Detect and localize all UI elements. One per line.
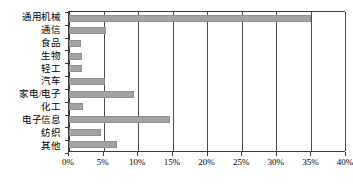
bar xyxy=(69,116,170,123)
y-axis-label: 家电/电子 xyxy=(19,89,64,99)
bar-row xyxy=(69,12,345,25)
y-axis-label: 纺织 xyxy=(41,128,64,138)
bar-row xyxy=(69,25,345,38)
bar xyxy=(69,78,105,85)
x-axis-tick xyxy=(241,152,242,156)
x-axis-tick-label: 35% xyxy=(302,157,319,168)
x-axis-tick-label: 25% xyxy=(233,157,250,168)
bar xyxy=(69,103,83,110)
bar xyxy=(69,40,81,47)
gridline xyxy=(345,12,346,151)
bar-row xyxy=(69,37,345,50)
y-axis-label: 汽车 xyxy=(41,76,64,86)
y-axis-label: 通信 xyxy=(41,25,64,35)
bar-row xyxy=(69,50,345,63)
y-axis-label: 通用机械 xyxy=(22,12,64,22)
bar-row xyxy=(69,100,345,113)
bar xyxy=(69,65,82,72)
y-axis-category-labels: 通用机械 通信 食品 生物 轻工 汽车 家电/电子 化工 电子信息 纺织 其他 xyxy=(0,11,64,152)
x-axis-tick xyxy=(68,152,69,156)
bar xyxy=(69,141,117,148)
x-axis-tick-label: 30% xyxy=(268,157,285,168)
bar xyxy=(69,15,311,22)
plot-area xyxy=(68,11,345,152)
x-axis-tick-labels: 0%5%10%15%20%25%30%35%40% xyxy=(68,157,345,171)
x-axis-tick xyxy=(276,152,277,156)
bar-row xyxy=(69,75,345,88)
bar xyxy=(69,53,82,60)
x-axis-tick xyxy=(310,152,311,156)
x-axis-tick-label: 5% xyxy=(97,157,109,168)
x-axis-tick-label: 20% xyxy=(198,157,215,168)
bar-row xyxy=(69,113,345,126)
bar xyxy=(69,27,106,34)
bar-series xyxy=(69,12,345,151)
x-axis-tick xyxy=(207,152,208,156)
x-axis-ticks xyxy=(68,152,345,156)
x-axis-tick-label: 0% xyxy=(62,157,74,168)
bar-row xyxy=(69,63,345,76)
y-axis-label: 电子信息 xyxy=(22,115,64,125)
x-axis-tick xyxy=(345,152,346,156)
bar-row xyxy=(69,88,345,101)
bar-row xyxy=(69,126,345,139)
x-axis-tick-label: 15% xyxy=(164,157,181,168)
y-axis-label: 食品 xyxy=(41,38,64,48)
bar-row xyxy=(69,138,345,151)
y-axis-label: 生物 xyxy=(41,51,64,61)
x-axis-tick-label: 40% xyxy=(337,157,353,168)
x-axis-tick xyxy=(103,152,104,156)
x-axis-tick-label: 10% xyxy=(129,157,146,168)
y-axis-label: 化工 xyxy=(41,102,64,112)
y-axis-label: 其他 xyxy=(41,141,64,151)
bar xyxy=(69,91,134,98)
bar xyxy=(69,129,101,136)
y-axis-label: 轻工 xyxy=(41,64,64,74)
x-axis-tick xyxy=(137,152,138,156)
x-axis-tick xyxy=(172,152,173,156)
